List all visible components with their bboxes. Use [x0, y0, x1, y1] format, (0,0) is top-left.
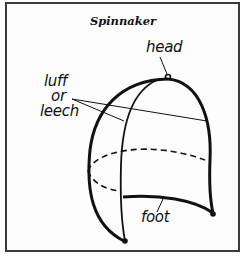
head-label: head: [146, 40, 182, 55]
foot-label: foot: [141, 210, 169, 225]
luff-leader-right: [72, 99, 207, 121]
head-leader: [160, 57, 167, 74]
right-edge: [168, 79, 213, 213]
hidden-dashed-curve: [88, 149, 205, 171]
luff-label-line3: leech: [40, 104, 79, 119]
spinnaker-drawing: [0, 0, 246, 257]
head-grommet-icon: [166, 75, 171, 80]
left-clew-dot: [122, 238, 128, 244]
right-clew-dot: [210, 211, 216, 217]
hidden-dashed-lower: [88, 171, 121, 191]
